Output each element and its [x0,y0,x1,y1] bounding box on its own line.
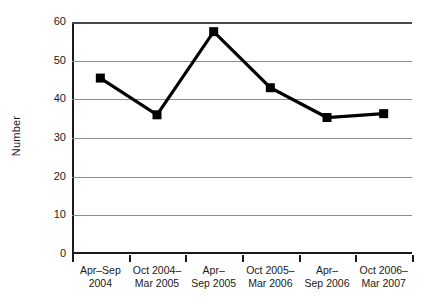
y-tick-label-40: 40 [26,92,66,104]
x-axis-label-line: Sep 2006 [299,277,356,290]
x-axis-label-5: Oct 2006–Mar 2007 [355,264,412,304]
x-axis-label-line: Apr– [299,264,356,277]
x-axis-label-2: Apr–Sep 2005 [185,264,242,304]
data-point-2 [209,27,218,36]
y-tick-label-30: 30 [26,131,66,143]
x-tick-4 [299,255,301,262]
x-axis-label-line: Sep 2005 [185,277,242,290]
data-point-3 [266,83,275,92]
x-axis-label-line: Oct 2006– [355,264,412,277]
x-tick-3 [242,255,244,262]
series-line [100,32,383,118]
data-point-4 [323,113,332,122]
x-axis-label-line: Oct 2005– [242,264,299,277]
x-axis-label-0: Apr–Sep2004 [72,264,129,304]
series-markers [96,27,388,122]
x-axis-label-line: Apr–Sep [72,264,129,277]
data-point-5 [379,109,388,118]
x-axis-label-line: Oct 2004– [129,264,186,277]
x-tick-2 [185,255,187,262]
x-axis-label-line: Apr– [185,264,242,277]
y-axis-tick-labels: 0102030405060 [22,22,66,254]
x-tick-1 [129,255,131,262]
y-axis-title: Number [10,106,22,166]
x-axis-label-4: Apr–Sep 2006 [299,264,356,304]
y-tick-label-60: 60 [26,15,66,27]
y-tick-label-10: 10 [26,208,66,220]
data-series [72,22,412,254]
x-axis-label-line: Mar 2006 [242,277,299,290]
data-point-1 [153,110,162,119]
x-tick-0 [72,255,74,262]
x-axis-label-line: Mar 2005 [129,277,186,290]
y-tick-label-0: 0 [26,247,66,259]
x-axis-label-3: Oct 2005–Mar 2006 [242,264,299,304]
x-axis-label-line: Mar 2007 [355,277,412,290]
x-axis-label-1: Oct 2004–Mar 2005 [129,264,186,304]
line-chart: Number 0102030405060 Apr–Sep2004Oct 2004… [0,0,429,306]
y-tick-label-50: 50 [26,54,66,66]
data-point-0 [96,74,105,83]
plot-area [72,22,412,254]
x-axis-ticks [72,255,414,263]
x-tick-6 [412,255,414,262]
y-tick-label-20: 20 [26,170,66,182]
x-tick-5 [355,255,357,262]
x-axis-label-line: 2004 [72,277,129,290]
x-axis-labels: Apr–Sep2004Oct 2004–Mar 2005Apr–Sep 2005… [72,264,412,304]
